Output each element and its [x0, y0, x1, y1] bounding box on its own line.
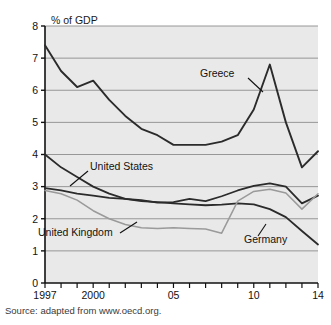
y-tick-label-6: 6	[32, 84, 38, 96]
series-label-united-kingdom: United Kingdom	[38, 226, 113, 238]
series-label-greece: Greece	[200, 67, 235, 79]
y-tick-label-3: 3	[32, 180, 38, 192]
y-tick-label-8: 8	[32, 20, 38, 32]
y-tick-label-0: 0	[32, 277, 38, 289]
source-note: Source: adapted from www.oecd.org.	[5, 305, 161, 316]
x-tick-label-2005: 05	[168, 289, 180, 301]
y-tick-label-5: 5	[32, 116, 38, 128]
y-tick-label-1: 1	[32, 245, 38, 257]
y-tick-label-7: 7	[32, 52, 38, 64]
x-tick-label-2000: 2000	[81, 289, 105, 301]
x-tick-label-2010: 10	[248, 289, 260, 301]
series-label-germany: Germany	[244, 233, 288, 245]
x-tick-label-2014: 14	[312, 289, 324, 301]
line-chart: 01234567819972000051014GreeceUnited Stat…	[0, 0, 331, 325]
y-tick-label-4: 4	[32, 148, 38, 160]
figure-container: % of GDP 01234567819972000051014GreeceUn…	[0, 0, 331, 325]
x-tick-label-1997: 1997	[33, 289, 57, 301]
series-label-united-states: United States	[90, 160, 153, 172]
y-tick-label-2: 2	[32, 213, 38, 225]
